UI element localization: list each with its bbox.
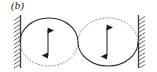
right-bubble-solid-arc bbox=[78, 18, 138, 66]
right-bubble bbox=[78, 18, 138, 66]
right-wall-hatching bbox=[139, 17, 145, 69]
left-wall-hatching bbox=[14, 17, 20, 69]
figure-panel-b: (b) bbox=[0, 0, 157, 72]
figure-scene bbox=[0, 0, 157, 72]
left-bubble bbox=[20, 18, 78, 66]
right-wall bbox=[139, 15, 146, 68]
